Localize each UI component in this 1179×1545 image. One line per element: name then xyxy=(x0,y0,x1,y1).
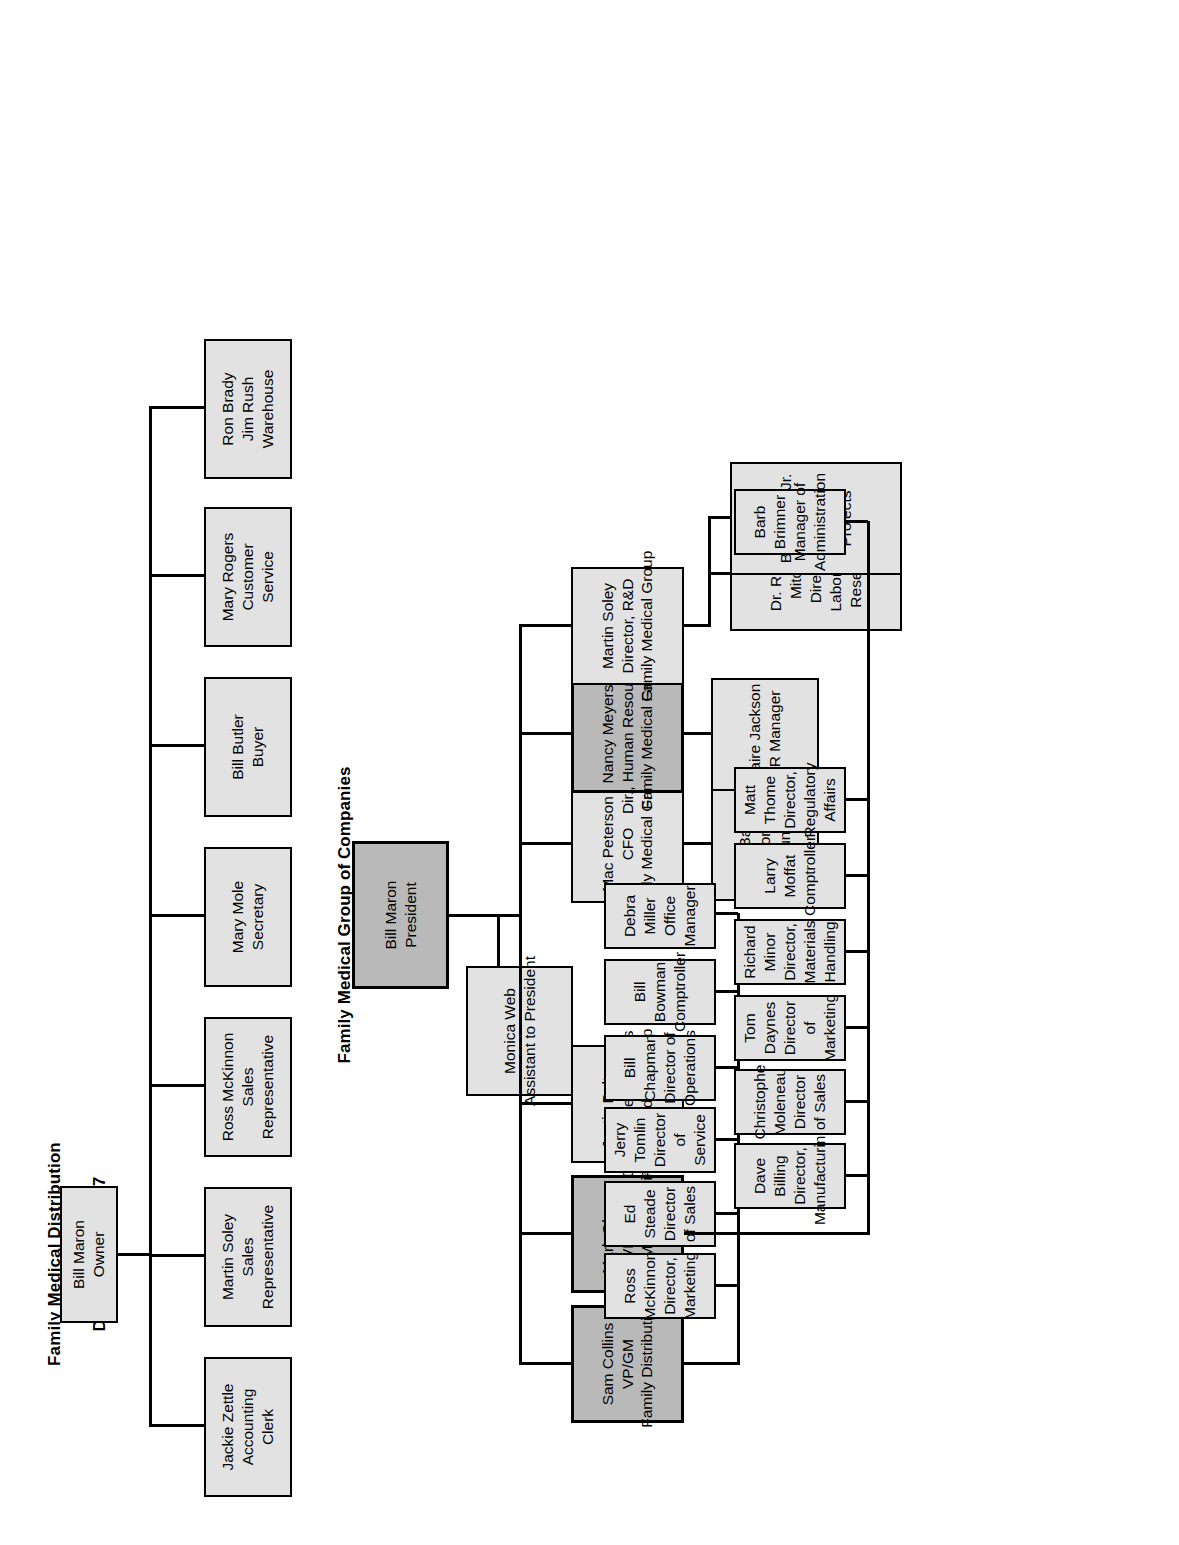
node-line: Manager of Administration xyxy=(790,473,830,571)
node-bill-bowman[interactable]: Bill Bowman Comptroller xyxy=(604,959,716,1025)
node-line: President xyxy=(401,882,421,947)
node-line: Director of Service xyxy=(650,1112,709,1168)
connector xyxy=(844,875,868,878)
node-line: Director, Marketing xyxy=(660,1252,700,1320)
node-line: Jackie Zettle xyxy=(218,1384,238,1471)
node-larry-moffat[interactable]: Larry Moffat Comptroller xyxy=(734,843,846,909)
connector xyxy=(714,1285,738,1288)
node-jerry-tomlin[interactable]: Jerry Tomlin Director of Service xyxy=(604,1107,716,1173)
node-bill-maron-owner[interactable]: Bill Maron Owner xyxy=(60,1186,118,1323)
connector xyxy=(714,1139,738,1142)
node-matt-thome[interactable]: Matt Thome Director, Regulatory Affairs xyxy=(734,767,846,833)
node-mary-mole[interactable]: Mary Mole Secretary xyxy=(204,847,292,987)
node-dave-billing[interactable]: Dave Billing Director, Manufacturing xyxy=(734,1143,846,1209)
node-line: Christophe Moleneau xyxy=(750,1065,790,1140)
node-line: Mac Peterson xyxy=(598,796,618,892)
connector xyxy=(519,733,573,736)
node-line: Director, Materials Handling xyxy=(780,921,839,984)
node-line: Bill Maron xyxy=(69,1220,89,1289)
node-line: Mary Rogers xyxy=(218,533,238,622)
node-line: Dave Billing xyxy=(750,1148,790,1204)
node-line: Richard Minor xyxy=(740,924,780,980)
node-line: Bill Butler xyxy=(228,714,248,779)
node-debra-miller[interactable]: Debra Miller Office Manager xyxy=(604,883,716,949)
connector xyxy=(519,1103,573,1106)
node-ross-mckinnon-sales[interactable]: Ross McKinnon Sales Representative xyxy=(204,1017,292,1157)
node-line: Jerry Tomlin xyxy=(610,1112,650,1168)
node-line: Bill Chapman xyxy=(620,1034,660,1101)
node-richard-minor[interactable]: Richard Minor Director, Materials Handli… xyxy=(734,919,846,985)
connector xyxy=(844,1101,868,1104)
node-line: Secretary xyxy=(248,884,268,950)
node-line: Bill Bowman xyxy=(630,962,670,1022)
node-line: Office Manager xyxy=(660,885,700,946)
node-line: Martin Soley xyxy=(598,583,618,669)
node-line: CFO xyxy=(618,828,638,861)
node-line: Director of Marketing xyxy=(780,994,839,1062)
node-ron-brady-jim-rush[interactable]: Ron Brady Jim Rush Warehouse xyxy=(204,339,292,479)
node-line: Martin Soley xyxy=(218,1214,238,1300)
node-barb-brimner[interactable]: Barb Brimner Manager of Administration xyxy=(734,489,846,555)
connector xyxy=(149,1425,204,1428)
node-line: Barb Brimner xyxy=(750,494,790,550)
connector xyxy=(519,843,573,846)
node-ed-steade[interactable]: Ed Steade Director of Sales xyxy=(604,1181,716,1247)
connector xyxy=(714,913,738,916)
node-line: Ed Steade xyxy=(620,1186,660,1242)
connector-bus xyxy=(867,521,870,1235)
connector xyxy=(149,745,204,748)
node-tom-daynes[interactable]: Tom Daynes Director of Marketing xyxy=(734,995,846,1061)
node-bill-butler[interactable]: Bill Butler Buyer xyxy=(204,677,292,817)
connector xyxy=(449,915,521,918)
node-line: Director, Manufacturing xyxy=(790,1127,830,1225)
node-line: Comptroller xyxy=(670,952,690,1032)
node-sam-collins[interactable]: Sam Collins VP/GM Family Distribution xyxy=(571,1305,684,1423)
connector xyxy=(684,625,710,628)
connector xyxy=(684,1363,739,1366)
org-chart-page: Family Medical Distribution December 31,… xyxy=(0,0,1179,1545)
connector xyxy=(149,915,204,918)
node-line: VP/GM xyxy=(618,1339,638,1389)
node-bill-chapman[interactable]: Bill Chapman Director of Operations xyxy=(604,1035,716,1101)
node-christophe-moleneau[interactable]: Christophe Moleneau Director of Sales xyxy=(734,1069,846,1135)
node-ross-mckinnon-marketing[interactable]: Ross McKinnon Director, Marketing xyxy=(604,1253,716,1319)
node-line: Customer xyxy=(238,543,258,610)
connector-assistant xyxy=(497,915,500,966)
connector xyxy=(714,1213,738,1216)
node-line: Sam Collins xyxy=(598,1323,618,1406)
node-line: Warehouse xyxy=(258,370,278,449)
connector xyxy=(708,517,732,520)
node-line: Jim Rush xyxy=(238,377,258,442)
node-line: Sales xyxy=(238,1068,258,1107)
node-line: Sales xyxy=(238,1238,258,1277)
node-mary-rogers[interactable]: Mary Rogers Customer Service xyxy=(204,507,292,647)
node-line: Clerk xyxy=(258,1409,278,1445)
connector xyxy=(149,575,204,578)
node-line: Mary Mole xyxy=(228,881,248,953)
node-martin-soley-sales[interactable]: Martin Soley Sales Representative xyxy=(204,1187,292,1327)
connector xyxy=(684,843,711,846)
node-bill-maron-president[interactable]: Bill Maron President xyxy=(352,841,449,989)
connector-bus xyxy=(149,407,152,1427)
node-line: Ross McKinnon xyxy=(218,1033,238,1142)
node-line: Ron Brady xyxy=(218,372,238,445)
connector xyxy=(118,1254,151,1257)
connector xyxy=(714,991,738,994)
node-jackie-zettle[interactable]: Jackie Zettle Accounting Clerk xyxy=(204,1357,292,1497)
connector xyxy=(844,1175,868,1178)
node-line: Ross McKinnon xyxy=(620,1252,660,1321)
node-line: Director, Regulatory Affairs xyxy=(780,763,839,838)
node-martin-soley-rd[interactable]: Martin Soley Director, R&D Family Medica… xyxy=(571,567,684,685)
node-line: Family Medical Group xyxy=(637,551,657,702)
connector xyxy=(844,1027,868,1030)
node-line: Bill Maron xyxy=(381,881,401,950)
node-nancy-meyers[interactable]: Nancy Meyers Dir., Human Resources Famil… xyxy=(571,675,684,793)
connector xyxy=(149,1255,204,1258)
connector xyxy=(149,407,204,410)
connector xyxy=(684,1233,869,1236)
node-line: Matt Thome xyxy=(740,772,780,828)
node-line: Debra Miller xyxy=(620,888,660,944)
connector xyxy=(149,1085,204,1088)
node-line: Director, R&D xyxy=(618,579,638,674)
connector xyxy=(844,521,868,524)
